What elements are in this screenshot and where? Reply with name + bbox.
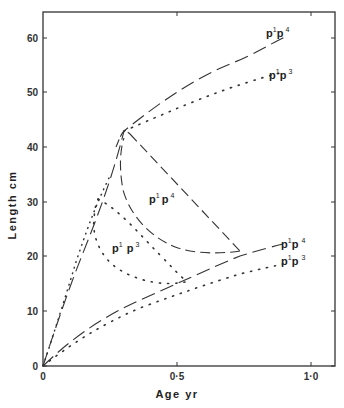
x-tick-0-5: 0·5 <box>170 371 185 382</box>
y-axis-ticks <box>43 38 335 366</box>
x-tick-0: 0 <box>40 371 46 382</box>
curve-lower-p1p3 <box>43 264 283 366</box>
curve-upper-p1p3 <box>124 72 285 131</box>
label-loop-p1p3: p1p3 <box>112 241 139 254</box>
x-axis-ticks <box>177 12 311 366</box>
label-loop-p1p4: p1p4 <box>149 192 174 205</box>
label-upper-p1p4: p1p4 <box>266 26 289 39</box>
y-tick-30: 30 <box>27 197 39 208</box>
x-tick-1-0: 1·0 <box>304 371 319 382</box>
curve-loop-p1p4-outer <box>130 134 240 251</box>
y-tick-60: 60 <box>27 33 39 44</box>
label-upper-p1p3: p1p3 <box>269 68 292 81</box>
y-tick-0: 0 <box>32 361 38 372</box>
x-axis-title: Age yr <box>155 388 198 400</box>
label-lower-p1p3: p1p3 <box>281 254 305 267</box>
y-tick-50: 50 <box>27 87 39 98</box>
plot-frame <box>43 12 335 366</box>
y-tick-20: 20 <box>27 251 39 262</box>
y-tick-10: 10 <box>27 306 39 317</box>
y-tick-40: 40 <box>27 142 39 153</box>
label-lower-p1p4: p1p4 <box>281 237 305 250</box>
curve-loop-p1p3-outer <box>98 199 185 280</box>
curve-loop-p1p4-inner <box>120 138 240 253</box>
curve-loop-p1p3-inner <box>94 199 185 284</box>
growth-chart: 0 10 20 30 40 50 60 0 0·5 1·0 Age yr Len… <box>0 0 344 408</box>
y-axis-title: Length cm <box>6 170 18 239</box>
